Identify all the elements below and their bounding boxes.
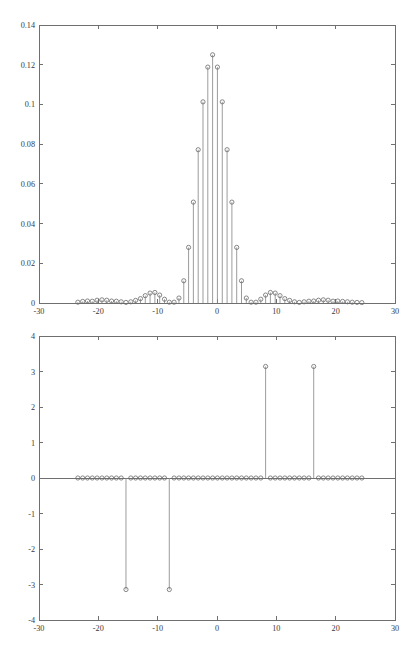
stem-marker — [297, 300, 301, 304]
x-tick-label: 30 — [391, 307, 399, 316]
y-tick-label: 4 — [31, 332, 35, 341]
y-tick-label: 0.02 — [21, 259, 35, 268]
x-tick-label: 0 — [215, 624, 219, 633]
phase-stem-plot-panel: -30-20-100102030-4-3-2-101234 — [0, 324, 420, 648]
x-tick-label: 20 — [332, 624, 340, 633]
y-tick-label: 2 — [31, 403, 35, 412]
x-tick-label: 20 — [332, 307, 340, 316]
y-tick-label: 0.04 — [21, 220, 35, 229]
y-tick-label: 3 — [31, 368, 35, 377]
phase-plot-svg: -30-20-100102030-4-3-2-101234 — [0, 324, 420, 648]
phase-plot-series — [76, 364, 364, 591]
stem-marker — [355, 300, 359, 304]
x-tick-label: -10 — [152, 307, 163, 316]
x-tick-label: -30 — [34, 624, 45, 633]
x-tick-label: -20 — [93, 307, 104, 316]
y-tick-label: -3 — [28, 581, 35, 590]
x-tick-label: 10 — [272, 624, 280, 633]
y-tick-label: -2 — [28, 545, 35, 554]
x-tick-label: -30 — [34, 307, 45, 316]
y-tick-label: 0.12 — [21, 61, 35, 70]
magnitude-plot-series — [76, 53, 364, 305]
y-tick-label: 0.14 — [21, 21, 35, 30]
y-tick-label: 0.08 — [21, 140, 35, 149]
x-tick-label: -20 — [93, 624, 104, 633]
y-tick-label: -1 — [28, 510, 35, 519]
y-tick-label: 0 — [31, 299, 35, 308]
x-tick-label: 10 — [272, 307, 280, 316]
stem-marker — [124, 300, 128, 304]
magnitude-stem-plot-panel: -30-20-10010203000.020.040.060.080.10.12… — [0, 0, 420, 324]
y-tick-label: 0.1 — [25, 100, 35, 109]
magnitude-plot-svg: -30-20-10010203000.020.040.060.080.10.12… — [0, 0, 420, 324]
x-tick-label: -10 — [152, 624, 163, 633]
y-tick-label: 0 — [31, 474, 35, 483]
y-tick-label: -4 — [28, 616, 35, 625]
x-tick-label: 0 — [215, 307, 219, 316]
figure-canvas: -30-20-10010203000.020.040.060.080.10.12… — [0, 0, 420, 648]
y-tick-label: 0.06 — [21, 180, 35, 189]
y-tick-label: 1 — [31, 439, 35, 448]
x-tick-label: 30 — [391, 624, 399, 633]
